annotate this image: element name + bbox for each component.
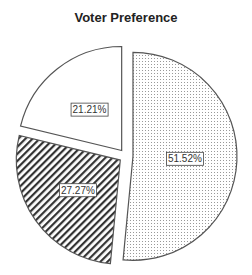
pie-chart: 51.52%27.27%21.21% — [0, 0, 252, 275]
pie-slice-2 — [21, 46, 122, 150]
pie-slice-1 — [16, 136, 120, 264]
slice-label: 27.27% — [61, 185, 95, 196]
slice-label: 21.21% — [73, 104, 107, 115]
slice-label: 51.52% — [168, 153, 202, 164]
